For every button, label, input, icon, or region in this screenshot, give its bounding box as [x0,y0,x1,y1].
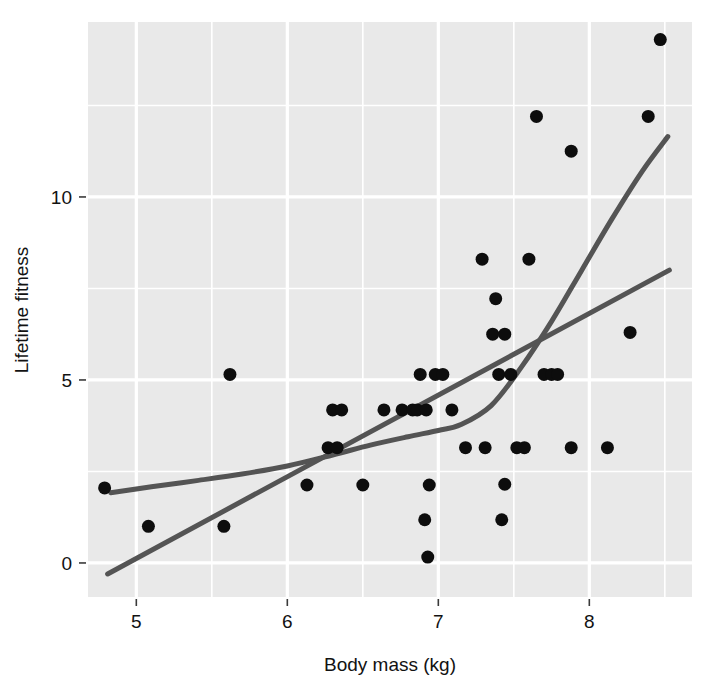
data-point [300,479,313,492]
plot-canvas: 0510 5678 Body mass (kg) Lifetime fitnes… [0,0,711,684]
data-point [565,145,578,158]
data-point [436,368,449,381]
data-point [504,368,517,381]
data-point [551,368,564,381]
data-point [331,441,344,454]
data-point [423,479,436,492]
data-point [642,110,655,123]
data-point [495,513,508,526]
data-point [498,328,511,341]
data-point [142,520,155,533]
data-point [492,368,505,381]
y-tick-label: 0 [61,553,72,574]
data-point [421,551,434,564]
data-point [518,441,531,454]
data-point [489,292,502,305]
scatter-plot-figure: 0510 5678 Body mass (kg) Lifetime fitnes… [0,0,711,684]
data-point [459,441,472,454]
y-axis-title: Lifetime fitness [11,247,32,374]
data-point [217,520,230,533]
x-tick-label: 7 [433,611,444,632]
x-axis-title: Body mass (kg) [324,654,456,675]
data-point [420,403,433,416]
data-point [98,481,111,494]
data-point [565,441,578,454]
data-point [335,403,348,416]
data-point [414,368,427,381]
y-tick-label: 10 [51,187,72,208]
data-point [377,403,390,416]
data-point [476,253,489,266]
data-point [418,513,431,526]
data-point [654,33,667,46]
data-point [486,328,499,341]
plot-panel [88,22,692,597]
data-point [530,110,543,123]
x-tick-label: 8 [584,611,595,632]
data-point [223,368,236,381]
data-point [356,479,369,492]
data-point [479,441,492,454]
data-point [522,253,535,266]
x-tick-label: 5 [131,611,142,632]
data-point [445,403,458,416]
x-tick-label: 6 [282,611,293,632]
data-point [624,326,637,339]
data-point [601,441,614,454]
y-tick-label: 5 [61,370,72,391]
data-point [498,478,511,491]
